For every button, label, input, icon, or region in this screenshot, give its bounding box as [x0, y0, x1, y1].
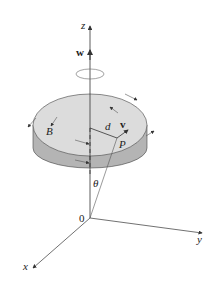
angular-velocity-label: w: [76, 46, 84, 58]
rim-arrow: [125, 94, 137, 100]
y-axis-label: y: [196, 233, 202, 245]
x-axis-label: x: [22, 260, 28, 272]
angle-label: θ: [93, 177, 99, 189]
rigid-body-rotation-diagram: z y x 0 w v d P B θ: [0, 0, 214, 289]
x-axis: [33, 218, 90, 268]
body-label: B: [46, 125, 53, 137]
velocity-label: v: [120, 118, 126, 130]
point-label: P: [118, 138, 126, 150]
y-axis: [90, 218, 202, 233]
distance-label: d: [105, 120, 111, 132]
z-axis-label: z: [80, 19, 86, 31]
origin-label: 0: [79, 212, 85, 224]
